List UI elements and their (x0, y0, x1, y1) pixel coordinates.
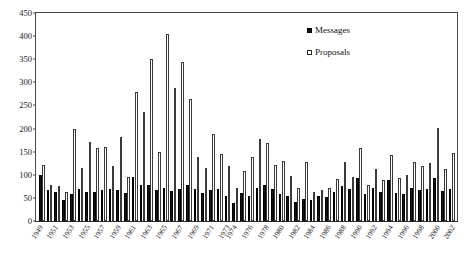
bar-proposals (282, 161, 285, 221)
x-axis: 1949195119531955195719591961196319651967… (35, 224, 458, 270)
bar-group (262, 13, 270, 221)
x-axis-slot: 1953 (68, 224, 76, 270)
bar-proposals (89, 142, 92, 222)
x-axis-slot: 1994 (387, 224, 395, 270)
bar-group (216, 13, 224, 221)
bar-proposals (197, 157, 200, 221)
legend-swatch-messages-icon (307, 28, 312, 33)
bar-group (115, 13, 123, 221)
y-axis-tick-label: 250 (19, 101, 32, 110)
bar-group (247, 13, 255, 221)
x-axis-slot: 1949 (37, 224, 45, 270)
bar-group (92, 13, 100, 221)
y-axis-tick-label: 50 (24, 194, 33, 203)
bar-proposals (251, 157, 254, 221)
chart-legend: Messages Proposals (307, 26, 350, 57)
x-axis-slot: 1982 (294, 224, 302, 270)
legend-label-messages: Messages (315, 26, 350, 35)
bar-proposals (328, 188, 331, 221)
bar-group (46, 13, 54, 221)
bar-group (239, 13, 247, 221)
bar-proposals (96, 148, 99, 221)
bar-proposals (112, 166, 115, 221)
bar-group (286, 13, 294, 221)
bar-proposals (143, 112, 146, 221)
x-axis-slot: 2002 (449, 224, 457, 270)
bar-group (355, 13, 363, 221)
x-axis-slot: 2000 (434, 224, 442, 270)
bar-proposals (344, 162, 347, 221)
bar-proposals (220, 154, 223, 221)
x-axis-slot: 1978 (263, 224, 271, 270)
bar-group (108, 13, 116, 221)
y-axis-tick-label: 100 (19, 171, 32, 180)
x-axis-slot: 1992 (372, 224, 380, 270)
bar-series-container (36, 13, 457, 221)
bar-proposals (174, 88, 177, 221)
bar-proposals (42, 165, 45, 221)
bar-group (208, 13, 216, 221)
bar-group (255, 13, 263, 221)
x-axis-slot: 1963 (146, 224, 154, 270)
bar-group (131, 13, 139, 221)
x-axis-slot: 1998 (418, 224, 426, 270)
bar-proposals (437, 128, 440, 221)
y-axis-tick-label: 300 (19, 78, 32, 87)
x-axis-slot: 1951 (53, 224, 61, 270)
bar-group (293, 13, 301, 221)
x-axis-tick-label-text: 1949 (30, 224, 44, 240)
x-axis-slot: 1969 (193, 224, 201, 270)
bar-proposals (150, 59, 153, 221)
bar-group (448, 13, 456, 221)
bar-proposals (158, 152, 161, 221)
x-axis-slot: 1971 (208, 224, 216, 270)
bar-group (185, 13, 193, 221)
legend-item-proposals: Proposals (307, 48, 350, 57)
bar-group (363, 13, 371, 221)
bar-group (69, 13, 77, 221)
x-axis-slot: 1996 (403, 224, 411, 270)
bar-group (278, 13, 286, 221)
bar-proposals (135, 92, 138, 221)
y-axis-tick-label: 450 (19, 9, 32, 18)
bar-proposals (266, 143, 269, 221)
bar-group (417, 13, 425, 221)
plot-area: 050100150200250300350400450 (35, 12, 458, 222)
y-axis-tick-label: 0 (28, 217, 32, 226)
x-axis-slot: 1955 (84, 224, 92, 270)
bar-group (38, 13, 46, 221)
bar-proposals (228, 166, 231, 221)
bar-group (231, 13, 239, 221)
bar-group (371, 13, 379, 221)
x-axis-slot: 1990 (356, 224, 364, 270)
bar-proposals (259, 139, 262, 221)
bar-proposals (104, 147, 107, 221)
x-axis-slot: 1961 (130, 224, 138, 270)
bar-proposals (297, 188, 300, 221)
legend-label-proposals: Proposals (315, 48, 350, 57)
bar-proposals (73, 129, 76, 221)
bar-group (162, 13, 170, 221)
x-axis-slot: 1986 (325, 224, 333, 270)
y-axis-tick-label: 150 (19, 147, 32, 156)
bar-proposals (390, 155, 393, 221)
bar-proposals (166, 34, 169, 221)
bar-group (77, 13, 85, 221)
legend-swatch-proposals-icon (307, 50, 312, 55)
bar-group (53, 13, 61, 221)
legend-item-messages: Messages (307, 26, 350, 35)
x-axis-slot: 1957 (99, 224, 107, 270)
bar-proposals (375, 169, 378, 221)
bar-group (169, 13, 177, 221)
y-axis-tick-label: 200 (19, 124, 32, 133)
bar-group (177, 13, 185, 221)
bar-group (123, 13, 131, 221)
bar-group (139, 13, 147, 221)
bar-proposals (313, 192, 316, 221)
bar-group (440, 13, 448, 221)
x-axis-slot: 1967 (177, 224, 185, 270)
bar-group (432, 13, 440, 221)
bar-proposals (452, 153, 455, 221)
y-axis-tick-label: 350 (19, 55, 32, 64)
bar-group (100, 13, 108, 221)
